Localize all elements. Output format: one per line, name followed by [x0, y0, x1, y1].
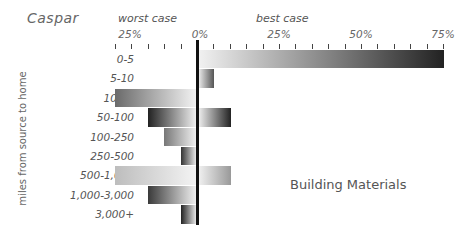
- x-tick-mark: [443, 44, 444, 49]
- x-tick-mark: [246, 44, 247, 49]
- category-label: 250-500: [90, 150, 134, 162]
- x-tick-mark: [181, 44, 182, 49]
- worst-case-caption: worst case: [118, 12, 177, 25]
- bar-best-case: [198, 166, 231, 184]
- x-tick-label: 0%: [192, 28, 209, 40]
- x-tick-mark: [230, 44, 231, 49]
- x-tick-mark: [312, 44, 313, 49]
- x-tick-mark: [410, 44, 411, 49]
- x-tick-label: 25%: [118, 28, 141, 40]
- category-label: 0-5: [117, 53, 134, 65]
- best-case-caption: best case: [256, 12, 309, 25]
- bar-worst-case: [181, 205, 197, 223]
- x-tick-mark: [328, 44, 329, 49]
- x-tick-mark: [427, 44, 428, 49]
- bar-best-case: [198, 50, 444, 68]
- x-tick-label: 75%: [431, 28, 454, 40]
- x-tick-mark: [131, 44, 132, 49]
- category-label: 1,000-3,000: [70, 189, 134, 201]
- bar-worst-case: [115, 166, 197, 184]
- x-tick-mark: [361, 44, 362, 49]
- bar-worst-case: [164, 128, 197, 146]
- x-tick-mark: [377, 44, 378, 49]
- bar-best-case: [198, 69, 214, 87]
- zero-axis-line: [196, 40, 199, 225]
- category-label: 50-100: [97, 111, 134, 123]
- bar-worst-case: [115, 89, 197, 107]
- x-tick-label: 25%: [267, 28, 290, 40]
- bar-worst-case: [181, 147, 197, 165]
- category-label: 5-10: [110, 72, 134, 84]
- x-tick-mark: [148, 44, 149, 49]
- chart-title: Caspar: [27, 10, 79, 26]
- category-label: 3,000+: [95, 208, 134, 220]
- x-tick-mark: [164, 44, 165, 49]
- bar-worst-case: [148, 108, 197, 126]
- x-tick-mark: [213, 44, 214, 49]
- bar-best-case: [198, 108, 231, 126]
- x-tick-mark: [345, 44, 346, 49]
- x-tick-mark: [394, 44, 395, 49]
- x-tick-mark: [115, 44, 116, 49]
- x-tick-mark: [295, 44, 296, 49]
- x-tick-mark: [263, 44, 264, 49]
- category-label: 100-250: [90, 131, 134, 143]
- chart-annotation: Building Materials: [290, 177, 406, 192]
- y-axis-label: miles from source to home: [17, 59, 28, 219]
- x-tick-mark: [279, 44, 280, 49]
- x-tick-label: 50%: [349, 28, 372, 40]
- bar-worst-case: [148, 186, 197, 204]
